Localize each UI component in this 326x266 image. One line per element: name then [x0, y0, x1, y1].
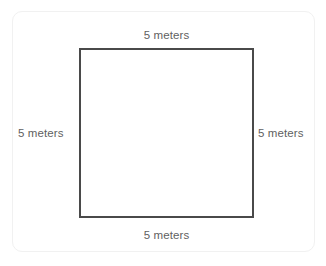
dimension-label-right: 5 meters: [258, 126, 318, 140]
dimension-label-left: 5 meters: [18, 126, 75, 140]
dimension-label-top: 5 meters: [79, 28, 254, 42]
square-shape: [79, 48, 254, 218]
figure-card: 5 meters 5 meters 5 meters 5 meters: [12, 11, 315, 252]
dimension-label-bottom: 5 meters: [79, 228, 254, 242]
